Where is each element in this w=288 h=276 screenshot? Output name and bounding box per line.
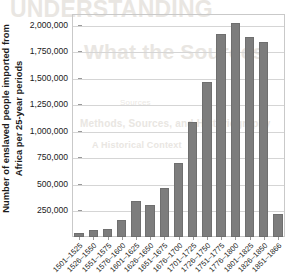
x-axis-tick-mark bbox=[250, 237, 251, 240]
x-axis-tick-mark bbox=[278, 237, 279, 240]
y-axis-tick-label: 1,750,000 bbox=[12, 46, 68, 56]
bar bbox=[160, 188, 169, 237]
y-axis-tick-label: 250,000 bbox=[12, 205, 68, 215]
bar bbox=[273, 214, 282, 237]
y-axis-tick-label: 1,250,000 bbox=[12, 99, 68, 109]
x-axis-tick-mark bbox=[164, 237, 165, 240]
x-axis-tick-mark bbox=[136, 237, 137, 240]
y-axis-tick-label: 1,000,000 bbox=[12, 126, 68, 136]
bar bbox=[131, 201, 140, 237]
x-axis-tick-labels: 1501–15251526–15501551–15751576–16001601… bbox=[72, 237, 285, 276]
bar bbox=[245, 37, 254, 237]
y-axis-tick-label: 1,500,000 bbox=[12, 73, 68, 83]
bar bbox=[103, 229, 112, 237]
x-axis-tick-mark bbox=[235, 237, 236, 240]
y-axis-tick-label: 500,000 bbox=[12, 179, 68, 189]
chart-container: UNDERSTANDING What the Sources Sources M… bbox=[0, 0, 288, 276]
x-axis-tick-mark bbox=[193, 237, 194, 240]
x-axis-tick-mark bbox=[221, 237, 222, 240]
x-axis-tick-mark bbox=[179, 237, 180, 240]
bar bbox=[174, 163, 183, 237]
y-axis-tick-label: 750,000 bbox=[12, 152, 68, 162]
bar bbox=[216, 34, 225, 237]
bar bbox=[145, 205, 154, 237]
bar bbox=[259, 42, 268, 237]
y-axis-tick-labels: 2,000,0001,750,0001,500,0001,250,0001,00… bbox=[10, 0, 68, 276]
x-axis-tick-mark bbox=[207, 237, 208, 240]
x-axis-tick-mark bbox=[264, 237, 265, 240]
y-axis-tick-label: 2,000,000 bbox=[12, 20, 68, 30]
bar bbox=[117, 220, 126, 237]
x-axis-tick-mark bbox=[122, 237, 123, 240]
x-axis-tick-mark bbox=[108, 237, 109, 240]
x-axis-tick-mark bbox=[79, 237, 80, 240]
x-axis-tick-mark bbox=[150, 237, 151, 240]
bar bbox=[231, 23, 240, 238]
bar-series bbox=[72, 14, 285, 237]
bar bbox=[89, 230, 98, 237]
bar bbox=[202, 82, 211, 237]
bar bbox=[188, 122, 197, 237]
x-axis-tick-mark bbox=[93, 237, 94, 240]
